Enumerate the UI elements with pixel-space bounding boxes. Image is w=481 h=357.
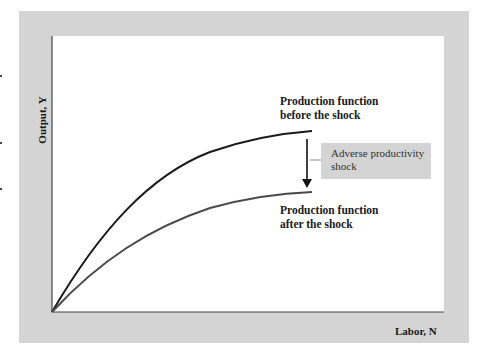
before-label-line1: Production function — [280, 94, 379, 108]
shock-label-box: Adverse productivity shock — [321, 143, 431, 179]
y-axis-label: Output, Y — [36, 95, 56, 145]
x-axis-label: Labor, N — [395, 325, 437, 337]
shock-label-line2: shock — [331, 160, 431, 173]
after-curve-label: Production function after the shock — [280, 203, 379, 231]
after-label-line1: Production function — [280, 203, 379, 217]
shock-arrow-head-icon — [302, 179, 312, 188]
shock-label-line1: Adverse productivity — [331, 147, 431, 160]
production-function-before-curve — [52, 131, 312, 312]
after-label-line2: after the shock — [280, 217, 379, 231]
before-label-line2: before the shock — [280, 108, 379, 122]
before-curve-label: Production function before the shock — [280, 94, 379, 122]
